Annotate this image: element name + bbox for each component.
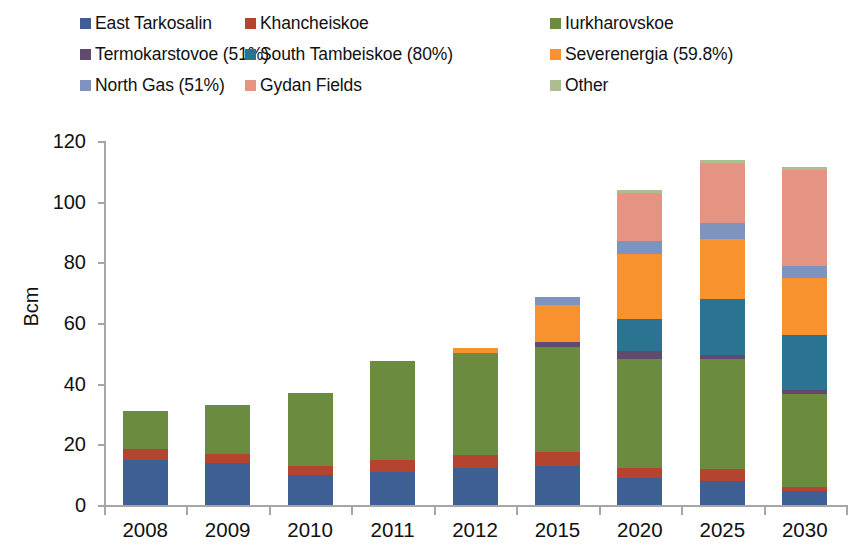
bar-segment[interactable] <box>123 460 168 505</box>
x-tick-mark <box>846 507 848 515</box>
bar-segment[interactable] <box>453 353 498 455</box>
y-tick-label: 100 <box>30 192 86 212</box>
y-axis-label: Bcm <box>20 262 43 352</box>
bar-stack[interactable] <box>205 405 250 505</box>
bar-segment[interactable] <box>700 223 745 239</box>
bar-segment[interactable] <box>288 475 333 505</box>
x-tick-mark <box>764 507 766 515</box>
x-axis-line <box>104 505 848 507</box>
y-tick-label: 60 <box>30 313 86 333</box>
x-tick-label: 2025 <box>677 518 767 542</box>
bar-segment[interactable] <box>535 297 580 305</box>
bars-container <box>104 141 846 505</box>
x-tick-mark <box>434 507 436 515</box>
bar-segment[interactable] <box>123 449 168 460</box>
y-tick-label: 0 <box>30 495 86 515</box>
bar-segment[interactable] <box>782 335 827 390</box>
bar-segment[interactable] <box>535 452 580 466</box>
bar-segment[interactable] <box>288 466 333 474</box>
y-tick-label: 120 <box>30 131 86 151</box>
bar-segment[interactable] <box>535 466 580 505</box>
bar-stack[interactable] <box>370 361 415 505</box>
bar-segment[interactable] <box>700 469 745 481</box>
x-tick-mark <box>269 507 271 515</box>
bar-segment[interactable] <box>617 193 662 241</box>
chart-plot: Bcm 020406080100120 20082009201020112012… <box>0 0 861 560</box>
bar-stack[interactable] <box>617 190 662 505</box>
y-tick-label: 80 <box>30 252 86 272</box>
bar-segment[interactable] <box>700 481 745 505</box>
bar-segment[interactable] <box>617 241 662 254</box>
x-tick-label: 2011 <box>348 518 438 542</box>
x-tick-label: 2015 <box>512 518 602 542</box>
bar-segment[interactable] <box>535 305 580 342</box>
bar-segment[interactable] <box>205 454 250 462</box>
bar-segment[interactable] <box>617 468 662 478</box>
bar-segment[interactable] <box>535 347 580 452</box>
bar-stack[interactable] <box>782 167 827 505</box>
bar-segment[interactable] <box>617 319 662 351</box>
bar-segment[interactable] <box>782 394 827 487</box>
x-tick-mark <box>104 507 106 515</box>
bar-segment[interactable] <box>370 361 415 460</box>
bar-segment[interactable] <box>617 254 662 319</box>
y-tick-label: 40 <box>30 374 86 394</box>
bar-stack[interactable] <box>123 411 168 505</box>
x-tick-label: 2008 <box>100 518 190 542</box>
x-tick-mark <box>599 507 601 515</box>
x-tick-label: 2010 <box>265 518 355 542</box>
bar-stack[interactable] <box>700 160 745 505</box>
bar-segment[interactable] <box>782 266 827 278</box>
bar-segment[interactable] <box>617 478 662 505</box>
bar-segment[interactable] <box>782 170 827 266</box>
x-tick-label: 2009 <box>183 518 273 542</box>
bar-segment[interactable] <box>288 393 333 467</box>
x-tick-mark <box>516 507 518 515</box>
x-tick-mark <box>351 507 353 515</box>
bar-segment[interactable] <box>700 239 745 299</box>
bar-segment[interactable] <box>700 359 745 469</box>
bar-stack[interactable] <box>288 393 333 505</box>
bar-stack[interactable] <box>535 297 580 505</box>
bar-segment[interactable] <box>453 468 498 505</box>
x-tick-label: 2012 <box>430 518 520 542</box>
bar-segment[interactable] <box>370 472 415 505</box>
bar-segment[interactable] <box>782 278 827 335</box>
bar-stack[interactable] <box>453 348 498 505</box>
bar-segment[interactable] <box>700 163 745 223</box>
x-tick-mark <box>681 507 683 515</box>
bar-segment[interactable] <box>205 405 250 454</box>
x-tick-mark <box>186 507 188 515</box>
bar-segment[interactable] <box>370 460 415 472</box>
bar-segment[interactable] <box>453 455 498 468</box>
bar-segment[interactable] <box>123 411 168 449</box>
bar-segment[interactable] <box>205 463 250 505</box>
bar-segment[interactable] <box>700 299 745 355</box>
bar-segment[interactable] <box>617 359 662 468</box>
x-tick-label: 2020 <box>595 518 685 542</box>
bar-segment[interactable] <box>617 351 662 359</box>
bar-segment[interactable] <box>782 491 827 505</box>
x-tick-label: 2030 <box>760 518 850 542</box>
y-tick-label: 20 <box>30 434 86 454</box>
